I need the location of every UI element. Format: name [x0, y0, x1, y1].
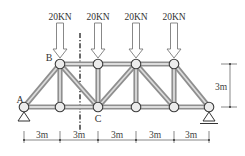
node — [204, 102, 214, 112]
roller-support-icon — [203, 112, 215, 121]
node-b — [55, 59, 65, 69]
load-label: 20KN — [86, 12, 109, 22]
span-dimension-label: 3m — [111, 130, 124, 140]
span-dimension-label: 3m — [185, 130, 198, 140]
node — [131, 59, 141, 69]
pin-support-icon — [18, 112, 30, 121]
node — [131, 102, 141, 112]
load-label: 20KN — [124, 12, 147, 22]
node — [169, 59, 179, 69]
node-label-b: B — [46, 52, 53, 63]
load-arrow-icon — [53, 23, 67, 58]
node-label-a: A — [16, 94, 24, 105]
load-arrow-icon — [91, 23, 105, 58]
load-label: 20KN — [162, 12, 185, 22]
node-label-c: C — [95, 113, 102, 124]
load-label: 20KN — [48, 12, 71, 22]
span-dimension-label: 3m — [73, 130, 86, 140]
span-dimension-label: 3m — [36, 130, 49, 140]
height-dimension-label: 3m — [215, 82, 228, 92]
truss-diagram: 20KN 20KN 20KN 20KN A B C 3m 3m 3m 3m 3m… — [0, 0, 245, 156]
truss-members — [24, 64, 209, 107]
node — [55, 102, 65, 112]
span-dimension-label: 3m — [149, 130, 162, 140]
node-c — [93, 102, 103, 112]
node — [169, 102, 179, 112]
node — [93, 59, 103, 69]
load-arrow-icon — [129, 23, 143, 58]
load-arrow-icon — [167, 23, 181, 58]
load-arrows — [53, 23, 181, 58]
